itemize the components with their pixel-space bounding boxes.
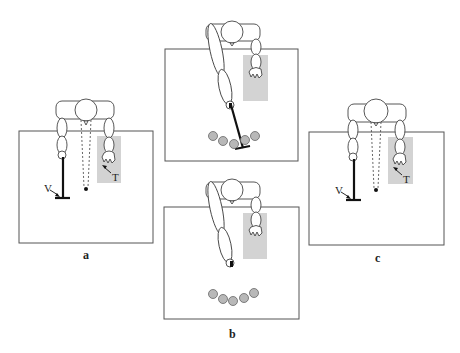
left-forearm [215,68,234,106]
left-upper-arm [57,118,67,138]
nose [230,43,234,46]
tool-grip [229,103,232,108]
tool-label: V [44,182,52,194]
right-upper-arm [251,39,261,55]
panel-label-b: b [229,327,236,341]
right-hand [249,226,262,237]
ball [219,295,228,304]
ball [209,132,218,141]
head [221,179,243,201]
left-upper-arm [348,120,358,140]
fixation-dot [374,188,378,192]
hand-marker [230,261,233,267]
fixation-dot [84,187,88,191]
experiment-figure: V T a [0,0,460,353]
ball [240,294,249,303]
head [75,99,97,121]
panel-label-c: c [375,251,381,265]
ball [250,289,259,298]
target-label: T [403,173,410,185]
right-upper-arm [104,118,114,138]
ball [230,140,239,149]
ball [219,137,228,146]
right-hand [249,68,262,79]
panel-c: V T c [309,99,444,265]
nose [84,121,88,125]
ball [241,136,250,145]
ball [229,297,238,306]
panel-b-top [165,21,298,161]
head [364,99,388,123]
nose [374,123,378,126]
right-upper-arm [251,197,261,213]
right-hand [393,153,406,165]
nose [230,201,234,204]
target-label: T [112,171,119,183]
panel-b-bottom: b [164,179,299,341]
right-upper-arm [395,120,405,140]
left-forearm [215,226,234,264]
sight-line [88,120,91,187]
head [221,21,243,43]
right-hand [102,151,115,163]
ball [209,290,218,299]
panel-label-a: a [83,248,89,262]
panel-a: V T a [19,99,153,262]
tool-label: V [335,184,343,196]
ball [251,132,260,141]
sight-line [81,120,84,187]
